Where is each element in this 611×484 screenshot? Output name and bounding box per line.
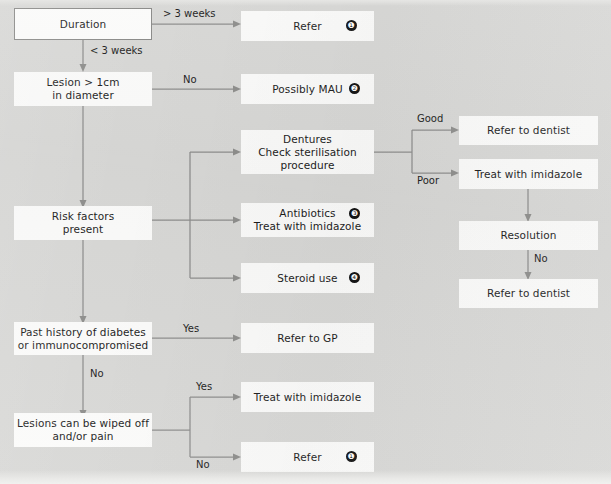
node-possibly-mau[interactable]: Possibly MAU ❷ [241, 74, 374, 104]
node-treat-imidazole-yes-label: Treat with imidazole [254, 391, 361, 404]
node-duration-label: Duration [60, 18, 106, 31]
node-risk-factors[interactable]: Risk factors present [14, 206, 152, 240]
node-treat-imidazole-poor[interactable]: Treat with imidazole [459, 159, 598, 189]
node-risk-factors-label: Risk factors present [52, 210, 115, 236]
edge-label-wiped-yes: Yes [196, 381, 212, 393]
edge-label-past-history-yes: Yes [183, 323, 199, 335]
node-steroid-use-label: Steroid use [277, 272, 337, 285]
node-refer-dentist-final-label: Refer to dentist [487, 287, 570, 300]
edge-label-resolution-no: No [534, 253, 548, 265]
node-antibiotics-label: Antibiotics Treat with imidazole [254, 207, 361, 233]
edge-label-good: Good [417, 113, 443, 125]
node-refer-gp-label: Refer to GP [277, 332, 338, 345]
node-resolution-label: Resolution [501, 229, 557, 242]
node-refer-bottom[interactable]: Refer ❶ [241, 442, 374, 472]
node-lesions-wiped[interactable]: Lesions can be wiped off and/or pain [14, 413, 152, 447]
badge-one-bottom: ❶ [346, 451, 357, 462]
node-refer-top-label: Refer [293, 20, 321, 33]
node-refer-bottom-label: Refer [293, 451, 321, 464]
edge-label-wiped-no: No [196, 459, 210, 471]
node-duration[interactable]: Duration [14, 8, 152, 40]
node-past-history[interactable]: Past history of diabetes or immunocompro… [14, 322, 152, 355]
edge-label-lesion-no: No [183, 74, 197, 86]
badge-two: ❷ [349, 83, 360, 94]
badge-one-top: ❶ [346, 20, 357, 31]
node-treat-imidazole-yes[interactable]: Treat with imidazole [241, 382, 374, 412]
node-refer-dentist-good-label: Refer to dentist [487, 124, 570, 137]
node-lesion-size[interactable]: Lesion > 1cm in diameter [14, 72, 152, 106]
badge-three: ❸ [349, 208, 360, 219]
badge-four: ❹ [349, 272, 360, 283]
edge-label-gt-3-weeks: > 3 weeks [163, 8, 216, 20]
node-steroid-use[interactable]: Steroid use ❹ [241, 263, 374, 293]
node-treat-imidazole-poor-label: Treat with imidazole [475, 168, 582, 181]
node-lesion-size-label: Lesion > 1cm in diameter [47, 76, 120, 102]
node-refer-dentist-final[interactable]: Refer to dentist [459, 279, 598, 308]
node-refer-dentist-good[interactable]: Refer to dentist [459, 116, 598, 145]
edge-label-lt-3-weeks: < 3 weeks [90, 45, 143, 57]
edge-label-poor: Poor [417, 175, 439, 187]
edge-label-past-history-no: No [90, 368, 104, 380]
node-possibly-mau-label: Possibly MAU [272, 83, 343, 96]
bottom-edge-fade [0, 470, 611, 484]
flowchart-canvas: Duration Lesion > 1cm in diameter Risk f… [0, 0, 611, 484]
top-edge-fade [0, 0, 611, 6]
node-refer-gp[interactable]: Refer to GP [241, 323, 374, 353]
node-antibiotics[interactable]: Antibiotics Treat with imidazole ❸ [241, 203, 374, 237]
node-resolution[interactable]: Resolution [459, 221, 598, 250]
node-refer-top[interactable]: Refer ❶ [241, 11, 374, 41]
node-dentures[interactable]: Dentures Check sterilisation procedure [241, 130, 374, 174]
node-dentures-label: Dentures Check sterilisation procedure [258, 133, 357, 172]
node-past-history-label: Past history of diabetes or immunocompro… [18, 326, 149, 352]
node-lesions-wiped-label: Lesions can be wiped off and/or pain [17, 417, 149, 443]
